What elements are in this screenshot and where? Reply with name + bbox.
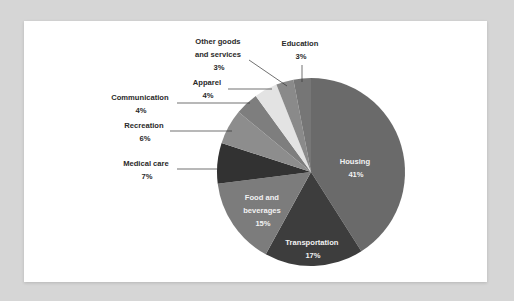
pie-chart: Other goods and services 3% Education 3%… [0, 0, 514, 301]
label-medical: Medical care 7% [123, 159, 171, 181]
label-other: Other goods and services 3% [195, 37, 243, 72]
label-apparel: Apparel 4% [193, 78, 223, 100]
leader-other [249, 60, 287, 86]
label-education: Education 3% [282, 39, 321, 61]
label-communication: Communication 4% [111, 93, 171, 115]
label-recreation: Recreation 6% [124, 121, 165, 143]
